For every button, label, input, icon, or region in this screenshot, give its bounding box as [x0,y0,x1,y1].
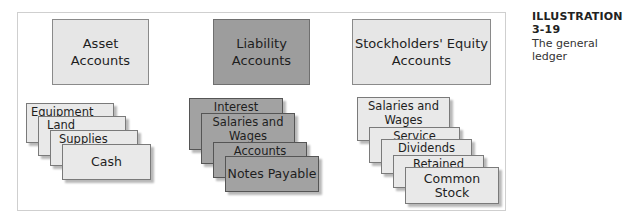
illustration-caption: ILLUSTRATION 3-19 The general ledger [532,10,631,63]
stockholders-equity-accounts-header-label: Stockholders' Equity Accounts [355,35,488,69]
illustration-subtitle: The general ledger [532,37,631,63]
account-label: Notes Payable [226,167,318,181]
account-label: Common Stock [406,172,498,200]
account-card-cash: Cash [62,144,151,180]
account-card-common-stock: Common Stock [405,167,499,204]
account-label: Cash [63,155,150,169]
account-label: Dividends [382,140,471,155]
liability-accounts-header-label: Liability Accounts [232,35,291,69]
illustration-number: ILLUSTRATION 3-19 [532,10,631,36]
asset-accounts-header: Asset Accounts [52,19,149,85]
account-card-notes-payable: Notes Payable [225,156,319,192]
liability-accounts-header: Liability Accounts [213,19,310,85]
asset-accounts-header-label: Asset Accounts [71,35,130,69]
stockholders-equity-accounts-header: Stockholders' Equity Accounts [352,19,491,85]
